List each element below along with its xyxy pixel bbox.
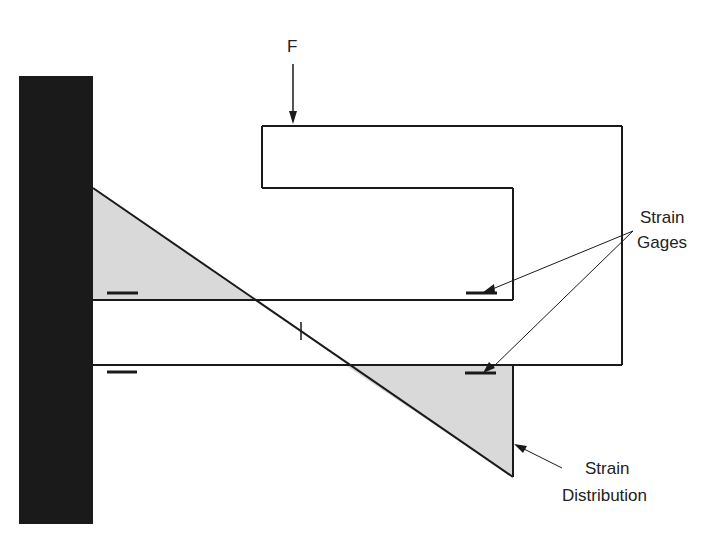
strain-distribution-leader (520, 447, 562, 468)
arrowhead-icon (289, 111, 297, 124)
strain-gages-label-line2: Gages (637, 233, 687, 252)
arrowhead-icon (514, 444, 527, 453)
force-label: F (287, 37, 297, 56)
strain-distribution-label-line1: Strain (585, 459, 629, 478)
arrowhead-icon (482, 284, 495, 293)
force-arrow (289, 64, 297, 124)
strain-gages-label-line1: Strain (640, 208, 684, 227)
fixed-wall-support (19, 76, 93, 524)
strain-distribution-line (93, 188, 513, 477)
strain-distribution-label-line2: Distribution (562, 486, 647, 505)
cantilever-diagram: F Strain Gages Strain Distribution (0, 0, 719, 546)
